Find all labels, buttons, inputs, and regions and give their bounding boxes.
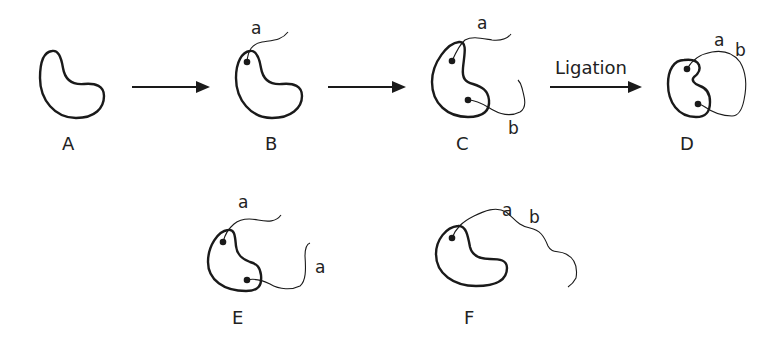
label-d: D bbox=[680, 133, 694, 154]
cell-f bbox=[436, 226, 507, 286]
cell-e bbox=[208, 230, 261, 291]
stage-d: a b D bbox=[668, 30, 746, 154]
arrow-c-to-d: Ligation bbox=[550, 57, 642, 93]
stage-e: a a E bbox=[208, 192, 325, 328]
strand-a bbox=[452, 34, 511, 61]
strand-label-a-2: a bbox=[315, 257, 325, 277]
strand-label-a: a bbox=[714, 30, 724, 50]
strand-label-a: a bbox=[251, 18, 261, 38]
stage-c: a b C bbox=[432, 13, 525, 154]
strand-a-1 bbox=[223, 215, 281, 242]
arrow-a-to-b bbox=[132, 81, 210, 93]
label-e: E bbox=[232, 307, 243, 328]
label-c: C bbox=[456, 133, 469, 154]
stage-f: a b F bbox=[436, 200, 577, 328]
ligation-diagram: A a B a b C Ligation a bbox=[0, 0, 780, 342]
arrow-b-to-c bbox=[328, 81, 406, 93]
stage-a: A bbox=[40, 51, 104, 154]
stage-b: a B bbox=[236, 18, 302, 154]
strand-label-b: b bbox=[735, 40, 746, 60]
strand-label-a-1: a bbox=[238, 192, 248, 212]
label-a: A bbox=[62, 133, 75, 154]
label-b: B bbox=[265, 133, 277, 154]
strand-label-a: a bbox=[477, 13, 487, 33]
strand-label-a: a bbox=[502, 200, 512, 220]
strand-label-b: b bbox=[508, 118, 519, 138]
label-f: F bbox=[464, 307, 474, 328]
cell-c bbox=[432, 42, 489, 117]
ligation-label: Ligation bbox=[555, 57, 627, 78]
cell-a bbox=[40, 51, 104, 118]
strand-label-b: b bbox=[529, 207, 540, 227]
